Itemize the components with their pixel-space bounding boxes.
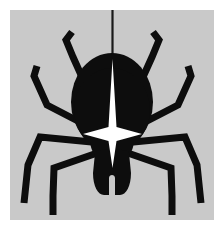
image-alt-text: Black widow spider silhouette hanging fr… bbox=[0, 0, 1, 1]
artwork-panel bbox=[10, 10, 214, 220]
spider-illustration bbox=[10, 10, 214, 220]
image-canvas: Black widow spider silhouette hanging fr… bbox=[0, 0, 224, 230]
leg-left-3 bbox=[24, 137, 102, 203]
leg-right-3 bbox=[123, 137, 201, 203]
